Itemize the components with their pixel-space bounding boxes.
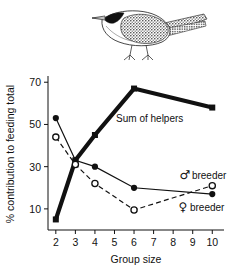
data-point-Sum-of-helpers [92,132,98,138]
x-tick-label: 7 [151,236,157,248]
data-point-female-breeder [72,161,78,167]
data-point-Sum-of-helpers [53,216,59,222]
data-point-female-breeder [53,134,59,140]
x-tick-label: 3 [72,236,78,248]
data-point-female-breeder [131,207,137,213]
x-tick-label: 4 [92,236,98,248]
x-tick-label: 5 [112,236,118,248]
x-tick-label: 2 [53,236,59,248]
data-point-female-breeder [209,183,215,189]
series-line-Sum-of-helpers [56,89,212,220]
y-tick-label: 50 [29,118,41,130]
series-annotation-label: breeder [192,170,227,181]
bird-illustration [88,2,208,62]
data-point-male-breeder [53,115,59,121]
x-tick-label: 9 [190,236,196,248]
y-tick-label: 70 [29,76,41,88]
data-point-male-breeder [209,191,215,197]
y-tick-label: 30 [29,161,41,173]
data-point-Sum-of-helpers [131,86,137,92]
data-point-male-breeder [131,185,137,191]
x-tick-label: 6 [131,236,137,248]
series-symbol-marker: ♀ [179,200,188,214]
series-symbol-marker: ♂ [180,168,191,182]
series-annotation-label: breeder [190,202,225,213]
y-axis-title: % contribution to feeding total [4,85,16,223]
data-point-female-breeder [92,180,98,186]
data-point-Sum-of-helpers [209,105,215,111]
figure-panel: 103050702345678910Group size% contributi… [0,0,232,280]
chart-plot-area: 103050702345678910Group size% contributi… [0,64,232,280]
series-annotation-label: Sum of helpers [116,113,183,124]
x-axis-title: Group size [111,253,162,265]
data-point-male-breeder [92,164,98,170]
x-tick-label: 8 [170,236,176,248]
x-tick-label: 10 [206,236,218,248]
y-tick-label: 10 [29,203,41,215]
